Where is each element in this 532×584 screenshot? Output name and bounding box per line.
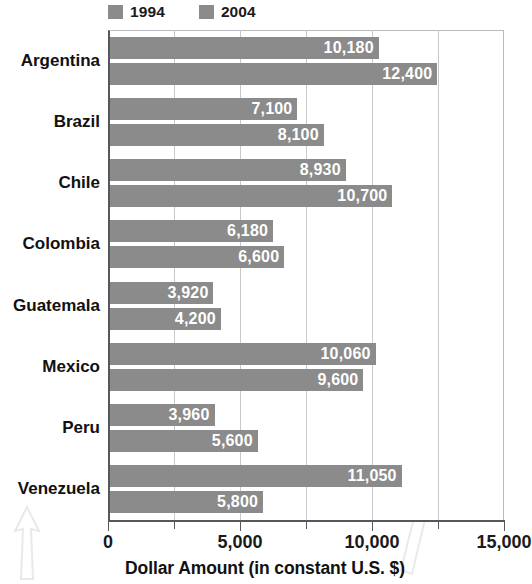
bar: 8,100: [110, 124, 324, 146]
bar-value-label: 8,930: [300, 162, 341, 178]
bar-value-label: 3,920: [167, 285, 208, 301]
x-axis-minor-tick: [438, 520, 439, 529]
bar: 11,050: [110, 465, 402, 487]
bar: 6,180: [110, 220, 273, 242]
gridline: [438, 30, 439, 520]
bar-value-label: 7,100: [251, 101, 292, 117]
bar: 5,800: [110, 491, 263, 513]
legend-swatch-icon-2004: [199, 5, 214, 19]
plot-area: 10,18012,4007,1008,1008,93010,7006,1806,…: [108, 30, 504, 520]
bar: 9,600: [110, 369, 363, 391]
category-label: Chile: [0, 173, 100, 193]
x-axis-minor-tick: [306, 520, 307, 529]
bar-value-label: 9,600: [317, 372, 358, 388]
legend-swatch-icon-1994: [108, 5, 123, 19]
bar: 8,930: [110, 159, 346, 181]
bar: 6,600: [110, 246, 284, 268]
bar: 12,400: [110, 63, 437, 85]
x-axis-title: Dollar Amount (in constant U.S. $): [0, 558, 530, 579]
category-label: Colombia: [0, 234, 100, 254]
bar: 5,600: [110, 430, 258, 452]
bar: 3,920: [110, 282, 213, 304]
gridline: [306, 30, 307, 520]
x-axis-major-tick: [108, 520, 109, 531]
legend-label-1994: 1994: [130, 3, 165, 21]
x-axis-tick-label: 15,000: [476, 532, 531, 553]
bar-value-label: 6,180: [227, 223, 268, 239]
bar-value-label: 10,060: [320, 346, 370, 362]
category-label: Peru: [0, 418, 100, 438]
bar: 10,180: [110, 37, 379, 59]
bar-value-label: 5,600: [212, 433, 253, 449]
bar-value-label: 10,180: [324, 40, 374, 56]
category-label: Argentina: [0, 51, 100, 71]
bar-value-label: 10,700: [337, 188, 387, 204]
bar-value-label: 4,200: [175, 311, 216, 327]
category-label: Venezuela: [0, 479, 100, 499]
legend-item-1994: 1994: [108, 3, 165, 21]
bar: 10,700: [110, 185, 392, 207]
x-axis-major-tick: [372, 520, 373, 531]
legend-item-2004: 2004: [199, 3, 256, 21]
bar: 4,200: [110, 308, 221, 330]
bar: 7,100: [110, 98, 297, 120]
category-label: Brazil: [0, 112, 100, 132]
bar-value-label: 6,600: [238, 249, 279, 265]
bar-value-label: 8,100: [278, 127, 319, 143]
bar-value-label: 12,400: [382, 66, 432, 82]
x-axis-tick-label: 0: [103, 532, 113, 553]
bar-value-label: 11,050: [347, 468, 396, 484]
chart-legend: 1994 2004: [108, 2, 256, 22]
gridline: [372, 30, 373, 520]
x-axis-major-tick: [504, 520, 505, 531]
x-axis-minor-tick: [174, 520, 175, 529]
legend-label-2004: 2004: [221, 3, 256, 21]
bar: 10,060: [110, 343, 376, 365]
bar-value-label: 5,800: [217, 494, 258, 510]
x-axis-tick-label: 5,000: [217, 532, 262, 553]
x-axis-major-tick: [240, 520, 241, 531]
bar-value-label: 3,960: [168, 407, 209, 423]
category-label: Mexico: [0, 357, 100, 377]
x-axis-tick-label: 10,000: [344, 532, 399, 553]
category-label: Guatemala: [0, 296, 100, 316]
bar: 3,960: [110, 404, 215, 426]
